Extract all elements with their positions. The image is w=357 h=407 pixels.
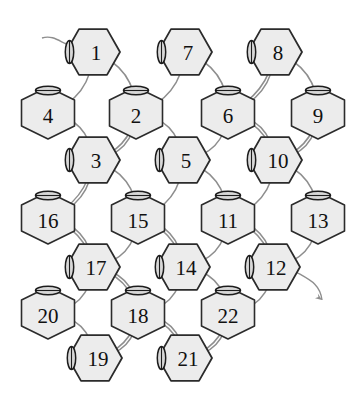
hex-node-18[interactable]: 18 (112, 286, 165, 339)
hex-node-17[interactable]: 17 (65, 244, 120, 290)
hex-node-19[interactable]: 19 (67, 335, 122, 381)
hex-node-label: 12 (266, 256, 287, 280)
hex-node-7[interactable]: 7 (157, 29, 212, 75)
hex-node-12[interactable]: 12 (245, 244, 300, 290)
hex-node-label: 10 (268, 149, 289, 173)
hex-node-11[interactable]: 11 (202, 191, 255, 244)
hex-node-3[interactable]: 3 (65, 137, 120, 183)
hex-node-10[interactable]: 10 (247, 137, 302, 183)
hex-node-label: 20 (38, 304, 59, 328)
hex-node-13[interactable]: 13 (292, 191, 345, 244)
hex-node-label: 21 (178, 347, 199, 371)
hex-node-21[interactable]: 21 (157, 335, 212, 381)
hex-node-label: 1 (91, 41, 102, 65)
hex-node-label: 6 (223, 104, 234, 128)
hex-node-label: 5 (181, 149, 192, 173)
hex-node-label: 15 (128, 209, 149, 233)
hexagon-lattice-graph: 12345678910111213141516171819202122 (0, 0, 357, 407)
hex-node-14[interactable]: 14 (155, 244, 210, 290)
hex-node-1[interactable]: 1 (65, 29, 120, 75)
hex-node-5[interactable]: 5 (155, 137, 210, 183)
hex-node-22[interactable]: 22 (202, 286, 255, 339)
hex-node-label: 13 (308, 209, 329, 233)
hex-node-8[interactable]: 8 (247, 29, 302, 75)
hex-node-label: 2 (131, 104, 142, 128)
hex-node-2[interactable]: 2 (110, 86, 163, 139)
hex-node-label: 17 (86, 256, 107, 280)
edge-layer (48, 52, 318, 358)
hex-node-9[interactable]: 9 (292, 86, 345, 139)
hex-node-20[interactable]: 20 (22, 286, 75, 339)
hex-node-label: 7 (183, 41, 194, 65)
hex-node-label: 3 (91, 149, 102, 173)
node-layer: 12345678910111213141516171819202122 (22, 29, 345, 381)
hex-node-label: 22 (218, 304, 239, 328)
hex-node-15[interactable]: 15 (112, 191, 165, 244)
hex-node-16[interactable]: 16 (22, 191, 75, 244)
diagram-canvas: 12345678910111213141516171819202122 (0, 0, 357, 407)
output-arrow-line (296, 272, 322, 300)
hex-node-label: 11 (218, 209, 238, 233)
hex-node-label: 16 (38, 209, 59, 233)
hex-node-label: 9 (313, 104, 324, 128)
hex-node-label: 8 (273, 41, 284, 65)
hex-node-label: 18 (128, 304, 149, 328)
hex-node-label: 4 (43, 104, 54, 128)
hex-node-4[interactable]: 4 (22, 86, 75, 139)
hex-node-label: 19 (88, 347, 109, 371)
hex-node-label: 14 (176, 256, 198, 280)
hex-node-6[interactable]: 6 (202, 86, 255, 139)
